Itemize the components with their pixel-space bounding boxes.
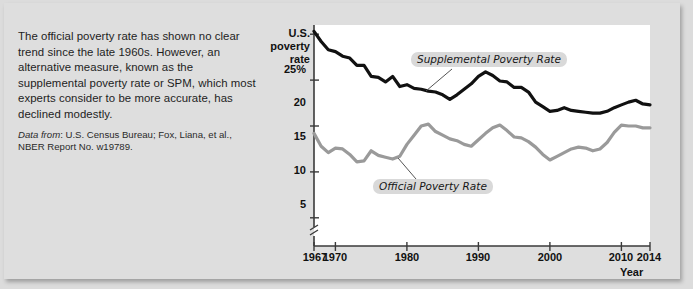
figure-panel: The official poverty rate has shown no c… [4, 3, 680, 279]
caption-source-lead: Data from [18, 129, 60, 140]
chart-svg [266, 11, 674, 273]
leader-line-supplemental [426, 69, 452, 91]
caption-block: The official poverty rate has shown no c… [18, 29, 261, 153]
line-official-poverty-rate [314, 124, 650, 162]
leader-line-official [398, 158, 416, 179]
caption-body: The official poverty rate has shown no c… [18, 29, 261, 123]
caption-source: Data from: U.S. Census Bureau; Fox, Lian… [18, 129, 261, 154]
line-supplemental-poverty-rate [314, 31, 650, 113]
chart: U.S. poverty rate 25% 20 15 10 5 1967 19… [266, 11, 674, 273]
figure-root: The official poverty rate has shown no c… [0, 0, 693, 289]
